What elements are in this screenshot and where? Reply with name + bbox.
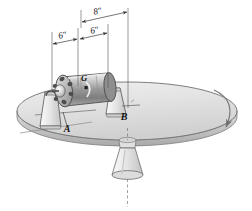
center-of-gravity-marker — [85, 86, 88, 89]
bearing-A-foot — [40, 126, 61, 129]
dimension-label-6in-right: 6" — [89, 24, 99, 36]
dim-line-8in — [82, 12, 127, 22]
point-label-G: G — [81, 73, 88, 83]
dim-line-6in-left — [53, 39, 77, 44]
dimension-label-6in-left: 6" — [57, 29, 67, 41]
pedestal-bottom — [112, 171, 143, 180]
figure-canvas: 8" 6" 6" G A B — [0, 0, 252, 211]
dimension-label-8in: 8" — [92, 5, 102, 17]
engineering-figure: 8" 6" 6" G A B — [0, 0, 252, 211]
point-label-B: B — [120, 111, 128, 122]
